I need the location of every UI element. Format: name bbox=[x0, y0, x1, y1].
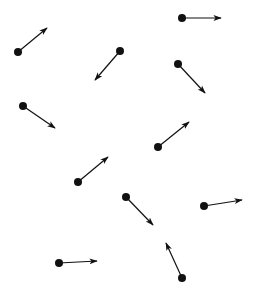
particle-vector bbox=[74, 157, 108, 186]
arrow-icon bbox=[204, 200, 242, 206]
particle-vector bbox=[154, 122, 189, 151]
arrow-icon bbox=[166, 243, 182, 278]
particle-vector bbox=[19, 102, 55, 128]
particle-vector bbox=[122, 193, 153, 225]
arrow-icon bbox=[178, 64, 205, 93]
particle-vector bbox=[55, 259, 97, 267]
particle-vector bbox=[200, 200, 242, 210]
arrow-icon bbox=[78, 157, 108, 182]
particle-dot-icon bbox=[178, 14, 186, 22]
vector-diagram bbox=[0, 0, 255, 293]
particle-vector bbox=[95, 47, 124, 80]
arrow-icon bbox=[126, 197, 153, 225]
particle-vector bbox=[14, 28, 47, 56]
particle-vector bbox=[178, 14, 221, 22]
particle-vector bbox=[166, 243, 186, 282]
particle-dot-icon bbox=[154, 143, 162, 151]
arrow-icon bbox=[18, 28, 47, 52]
particle-dot-icon bbox=[200, 202, 208, 210]
particle-dot-icon bbox=[55, 259, 63, 267]
particle-dot-icon bbox=[116, 47, 124, 55]
particle-vector bbox=[174, 60, 205, 93]
arrow-icon bbox=[95, 51, 120, 80]
arrows-layer bbox=[14, 14, 242, 282]
arrow-icon bbox=[23, 106, 55, 128]
particle-dot-icon bbox=[19, 102, 27, 110]
particle-dot-icon bbox=[74, 178, 82, 186]
particle-dot-icon bbox=[14, 48, 22, 56]
particle-dot-icon bbox=[122, 193, 130, 201]
arrow-icon bbox=[158, 122, 189, 147]
arrow-icon bbox=[59, 261, 97, 263]
particle-dot-icon bbox=[174, 60, 182, 68]
particle-dot-icon bbox=[178, 274, 186, 282]
